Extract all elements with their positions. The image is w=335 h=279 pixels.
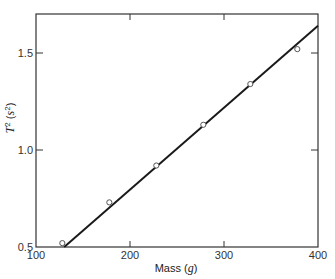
data-point <box>295 47 300 52</box>
chart: 1002003004000.51.01.5 Mass (g) T2 (s2) <box>0 0 335 279</box>
y-tick-label: 1.0 <box>18 144 33 156</box>
x-axis-label: Mass (g) <box>155 261 198 275</box>
x-tick-label: 400 <box>309 249 327 261</box>
plot-frame <box>36 14 318 247</box>
data-point <box>154 163 159 168</box>
ticks <box>36 14 318 247</box>
data-point <box>201 122 206 127</box>
data-point <box>60 241 65 246</box>
x-tick-label: 200 <box>121 249 139 261</box>
fit-line <box>64 26 318 247</box>
data-point <box>107 200 112 205</box>
y-tick-label: 1.5 <box>18 47 33 59</box>
y-tick-label: 0.5 <box>18 241 33 253</box>
x-tick-label: 300 <box>215 249 233 261</box>
fit-line-group <box>64 26 318 247</box>
data-point <box>248 81 253 86</box>
y-axis-label: T2 (s2) <box>3 103 17 134</box>
